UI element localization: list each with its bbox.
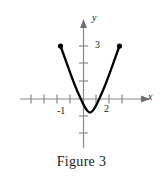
figure-caption: Figure 3: [0, 154, 163, 169]
y-tick-label-3: 3: [95, 40, 100, 50]
curve-endpoint-right-dot: [117, 43, 122, 48]
curve-endpoint-left-dot: [58, 43, 63, 48]
plot-svg: [0, 0, 163, 152]
parabola-path: [61, 46, 120, 113]
y-axis-label: y: [92, 13, 96, 23]
x-tick-label-neg-1: -1: [57, 106, 65, 116]
x-axis: [20, 95, 150, 104]
figure-container: y x 3 -1 2 Figure 3: [0, 0, 163, 179]
y-axis-arrowhead-icon: [80, 19, 87, 28]
x-axis-label: x: [148, 92, 152, 102]
coordinate-plot: y x 3 -1 2: [0, 0, 163, 152]
x-tick-label-2: 2: [104, 104, 109, 114]
y-axis: [79, 19, 88, 148]
parabola-curve: [58, 43, 122, 112]
